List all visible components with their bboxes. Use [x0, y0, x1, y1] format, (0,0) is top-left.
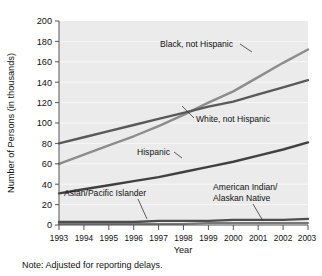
x-tick-1996: 1996 — [124, 233, 143, 243]
x-tick-2000: 2000 — [224, 233, 243, 243]
annotation-label-asian-pacific-islander: Asian/Pacific Islander — [64, 188, 146, 198]
y-tick-80: 80 — [42, 139, 52, 149]
y-tick-140: 140 — [37, 78, 52, 88]
x-tick-2001: 2001 — [249, 233, 268, 243]
y-tick-200: 200 — [37, 16, 52, 26]
x-tick-2002: 2002 — [274, 233, 293, 243]
y-tick-60: 60 — [42, 159, 52, 169]
x-tick-1999: 1999 — [199, 233, 218, 243]
x-axis-title: Year — [174, 245, 193, 255]
annotation-label-american-indian-line1: American Indian/ — [213, 182, 278, 192]
y-axis-title: Number of Persons (in thousands) — [6, 53, 16, 193]
y-tick-40: 40 — [42, 180, 52, 190]
y-tick-160: 160 — [37, 57, 52, 67]
y-tick-100: 100 — [37, 118, 52, 128]
x-tick-1994: 1994 — [75, 233, 94, 243]
x-tick-1998: 1998 — [174, 233, 193, 243]
chart-note: Note: Adjusted for reporting delays. — [22, 260, 163, 270]
y-tick-0: 0 — [47, 220, 52, 230]
annotation-label-black-not-hispanic: Black, not Hispanic — [160, 39, 234, 49]
x-axis-tick-labels: 1993 1994 1995 1996 1997 1998 1999 2000 … — [50, 233, 317, 243]
annotation-label-hispanic: Hispanic — [137, 147, 171, 157]
y-tick-120: 120 — [37, 98, 52, 108]
series-line-american-indian-alaskan-native — [59, 223, 308, 224]
x-tick-1993: 1993 — [50, 233, 69, 243]
y-axis-tick-labels: 200 180 160 140 120 100 80 60 40 20 0 — [37, 16, 52, 230]
annotation-label-white-not-hispanic: White, not Hispanic — [196, 114, 271, 124]
y-tick-180: 180 — [37, 37, 52, 47]
x-tick-2003: 2003 — [298, 233, 317, 243]
x-tick-1995: 1995 — [100, 233, 119, 243]
annotation-label-american-indian-line2: Alaskan Native — [213, 193, 271, 203]
y-tick-20: 20 — [42, 200, 52, 210]
x-tick-1997: 1997 — [149, 233, 168, 243]
x-axis-ticks — [59, 225, 308, 230]
line-chart-svg: 200 180 160 140 120 100 80 60 40 20 0 19… — [0, 0, 322, 276]
chart-figure: 200 180 160 140 120 100 80 60 40 20 0 19… — [0, 0, 322, 276]
